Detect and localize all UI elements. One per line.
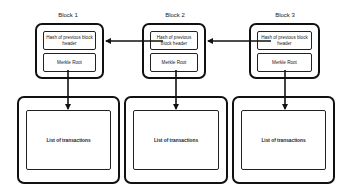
connector-arrows xyxy=(0,0,353,193)
